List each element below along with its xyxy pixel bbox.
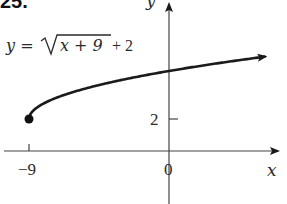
- function-curve: [29, 57, 265, 119]
- equation-radicand: x + 9: [60, 36, 103, 55]
- start-point-dot: [25, 115, 34, 124]
- y-tick-label-2: 2: [150, 110, 159, 129]
- equation-label: y = x + 9 + 2: [5, 35, 133, 55]
- problem-number: 25.: [0, 0, 28, 12]
- equation-lhs: y =: [5, 36, 34, 55]
- function-graph: 25. y = x + 9 + 2 −9 0 2 x y: [0, 0, 287, 204]
- x-axis-label: x: [267, 160, 277, 180]
- equation-rest: + 2: [112, 37, 133, 54]
- x-tick-label-neg9: −9: [18, 160, 36, 179]
- x-tick-label-0: 0: [164, 160, 173, 179]
- y-axis-label: y: [145, 0, 156, 10]
